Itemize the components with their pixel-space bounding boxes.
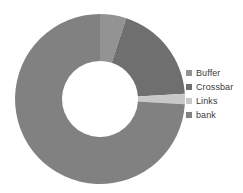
donut-chart-svg	[0, 0, 186, 193]
legend-item-links[interactable]: Links	[186, 94, 243, 108]
legend-swatch-icon	[186, 70, 192, 76]
legend-swatch-icon	[186, 112, 192, 118]
legend-item-label: Crossbar	[196, 82, 233, 92]
legend-swatch-icon	[186, 84, 192, 90]
legend-item-buffer[interactable]: Buffer	[186, 66, 243, 80]
legend-item-crossbar[interactable]: Crossbar	[186, 80, 243, 94]
donut-slice-crossbar[interactable]	[112, 18, 185, 96]
donut-slice-group	[15, 14, 185, 184]
chart-screenshot: BufferCrossbarLinksbank	[0, 0, 243, 193]
donut-chart	[0, 0, 186, 193]
legend-item-label: Buffer	[196, 68, 220, 78]
legend-swatch-icon	[186, 98, 192, 104]
legend-item-label: Links	[196, 96, 218, 106]
legend-item-bank[interactable]: bank	[186, 108, 243, 122]
chart-legend: BufferCrossbarLinksbank	[186, 66, 243, 122]
legend-item-label: bank	[196, 110, 216, 120]
